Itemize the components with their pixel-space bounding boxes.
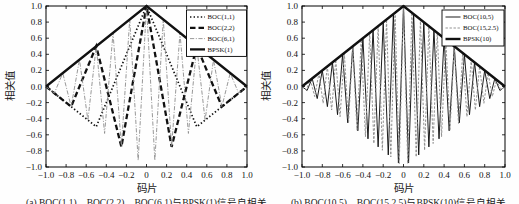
caption-a: (a) BOC(1,1)、BOC(2,2)、BOC(6,1)与BPSK(1)信号… [18,195,275,204]
y-tick-label: −0.6 [26,130,43,140]
y-tick-label: −1.0 [26,162,43,172]
legend-entry-label: BOC(10,5) [463,13,493,21]
x-tick-label: −0.8 [58,170,75,180]
x-tick-label: 0.6 [459,170,471,180]
x-tick-label: 0.6 [201,170,213,180]
x-tick-label: 0 [401,170,406,180]
y-tick-label: −0.4 [26,114,43,124]
x-tick-label: 0.4 [181,170,193,180]
x-tick-label: −0.8 [314,170,331,180]
x-tick-label: 0.8 [479,170,491,180]
x-tick-label: 1.0 [499,170,511,180]
legend-entry-label: BOC(2,2) [208,24,235,32]
y-tick-label: 0.2 [287,65,298,75]
x-tick-label: −0.2 [375,170,391,180]
x-axis-label-right: 码片 [394,180,414,195]
x-tick-label: 0.2 [161,170,172,180]
x-tick-label: −0.6 [78,170,95,180]
y-tick-label: −0.4 [282,114,299,124]
x-axis-label-left: 码片 [137,180,157,195]
y-tick-label: 1.0 [31,1,43,11]
y-tick-label: 0.4 [287,49,299,59]
y-tick-label: −0.2 [26,98,42,108]
legend-entry-label: BOC(1,1) [208,13,235,21]
y-tick-label: −0.8 [26,146,43,156]
y-tick-label: 0.6 [287,33,299,43]
panel-b: −1.0−0.8−0.6−0.4−0.200.20.40.60.81.01.00… [282,1,511,180]
x-tick-label: 0.2 [418,170,429,180]
legend-entry-label: BPSK(10) [463,35,491,43]
x-tick-label: −0.2 [118,170,134,180]
x-tick-label: −0.4 [355,170,372,180]
y-tick-label: 0.6 [31,33,43,43]
y-axis-label-right: 相关值 [258,71,273,101]
x-tick-label: 0.4 [438,170,450,180]
x-tick-label: −0.4 [98,170,115,180]
x-tick-label: 1.0 [241,170,253,180]
x-tick-label: −0.6 [334,170,351,180]
legend-entry-label: BOC(15,2.5) [463,24,499,32]
y-tick-label: 1.0 [287,1,299,11]
y-tick-label: −0.2 [282,98,298,108]
y-tick-label: 0.8 [31,17,43,27]
legend-entry-label: BOC(6,1) [208,35,235,43]
x-tick-label: 0.8 [221,170,233,180]
y-tick-label: −0.6 [282,130,299,140]
x-tick-label: 0 [144,170,149,180]
y-tick-label: 0.2 [31,65,42,75]
y-axis-label-left: 相关值 [2,71,17,101]
y-tick-label: 0.0 [287,82,299,92]
caption-b: (b) BOC(10,5)、BOC(15,2.5)与BPSK(10)信号自相关 [278,195,519,204]
charts-canvas: −1.0−0.8−0.6−0.4−0.200.20.40.60.81.01.00… [0,0,519,204]
y-tick-label: 0.4 [31,49,43,59]
y-tick-label: 0.8 [287,17,299,27]
y-tick-label: 0.0 [31,82,43,92]
y-tick-label: −0.8 [282,146,299,156]
y-tick-label: −1.0 [282,162,299,172]
panel-a: −1.0−0.8−0.6−0.4−0.200.20.40.60.81.01.00… [26,1,253,180]
legend-entry-label: BPSK(1) [208,46,233,54]
figure: −1.0−0.8−0.6−0.4−0.200.20.40.60.81.01.00… [0,0,519,204]
